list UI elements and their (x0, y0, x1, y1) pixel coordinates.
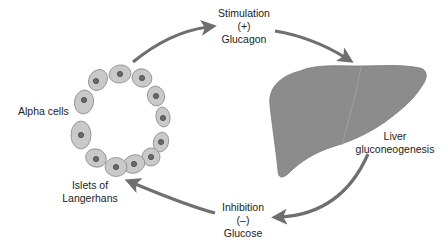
inhibition-label: Inhibition (–) Glucose (208, 201, 278, 240)
alpha-cell (145, 84, 167, 108)
stimulation-sign: (+) (208, 20, 280, 33)
liver-line1: Liver (352, 130, 438, 143)
liver-line2: gluconeogenesis (352, 143, 438, 156)
glucagon-text: Glucagon (208, 33, 280, 46)
feedback-diagram: Stimulation (+) Glucagon Alpha cells Isl… (0, 0, 446, 245)
stimulation-label: Stimulation (+) Glucagon (208, 7, 280, 46)
liver-label: Liver gluconeogenesis (352, 130, 438, 156)
glucose-text: Glucose (208, 227, 278, 240)
islets-line2: Langerhans (60, 192, 120, 205)
inhibition-text: Inhibition (208, 201, 278, 214)
alpha-cells-label: Alpha cells (18, 105, 69, 118)
islets-label: Islets of Langerhans (60, 179, 120, 205)
stimulation-text: Stimulation (208, 7, 280, 20)
islets-line1: Islets of (60, 179, 120, 192)
alpha-cell (108, 63, 133, 85)
alpha-cell (154, 106, 171, 128)
alpha-cell (85, 66, 112, 94)
inhibition-sign: (–) (208, 214, 278, 227)
alpha-cell (73, 89, 96, 116)
alpha-cell (105, 158, 127, 177)
alpha-cell (71, 121, 91, 149)
alpha-cells-text: Alpha cells (18, 105, 69, 118)
liver (270, 66, 426, 178)
islets-of-langerhans (71, 63, 172, 176)
alpha-cell (130, 66, 155, 90)
